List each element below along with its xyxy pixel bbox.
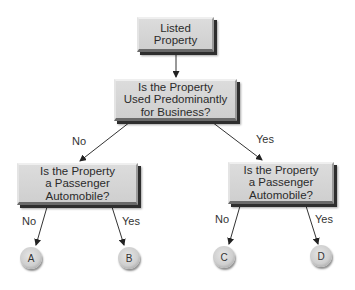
node-listed-property: Listed Property <box>137 17 214 52</box>
node-passenger-automobile-left: Is the Property a Passenger Automobile? <box>17 163 138 205</box>
node-text-line: for Business? <box>124 106 228 119</box>
node-text-line: Automobile? <box>40 190 115 203</box>
outcome-label: B <box>126 253 133 264</box>
outcome-b: B <box>118 247 140 269</box>
outcome-label: A <box>28 253 35 264</box>
node-text-line: Is the Property <box>124 81 228 94</box>
arrow-right-yes <box>306 206 318 244</box>
outcome-a: A <box>20 247 42 269</box>
node-text-line: Used Predominantly <box>124 93 228 106</box>
node-text-line: a Passenger <box>244 176 319 189</box>
outcome-c: C <box>213 246 235 268</box>
edge-label-right-yes: Yes <box>315 213 333 225</box>
node-passenger-automobile-right: Is the Property a Passenger Automobile? <box>228 162 334 204</box>
arrow-right-no <box>229 206 240 244</box>
node-text-line: Is the Property <box>40 165 115 178</box>
arrow-business-no <box>80 122 130 161</box>
outcome-label: D <box>317 251 324 262</box>
outcome-d: D <box>310 245 332 267</box>
node-text-line: Automobile? <box>244 189 319 202</box>
arrow-business-yes <box>212 122 262 160</box>
edge-label-business-no: No <box>72 135 86 147</box>
node-text-line: Listed <box>154 22 197 35</box>
edge-label-business-yes: Yes <box>256 133 274 145</box>
edge-label-left-no: No <box>22 215 36 227</box>
edge-label-left-yes: Yes <box>122 215 140 227</box>
node-used-for-business-question: Is the Property Used Predominantly for B… <box>114 79 237 121</box>
arrow-left-no <box>36 207 47 245</box>
decision-tree-diagram: Listed Property Is the Property Used Pre… <box>0 0 355 290</box>
edge-label-right-no: No <box>215 213 229 225</box>
node-text-line: a Passenger <box>40 177 115 190</box>
outcome-label: C <box>220 252 227 263</box>
node-text-line: Is the Property <box>244 164 319 177</box>
node-text-line: Property <box>154 34 197 47</box>
